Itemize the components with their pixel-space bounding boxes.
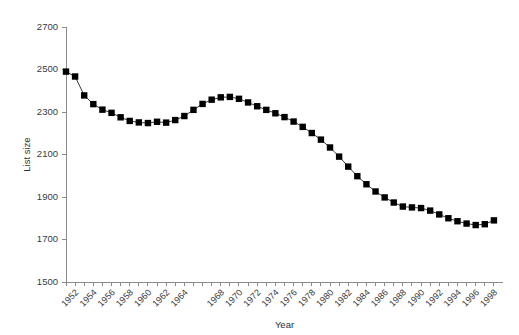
x-tick-label: 1952 bbox=[59, 287, 80, 308]
data-point bbox=[436, 211, 442, 217]
chart-container: 1500170019002100230025002700 19521954195… bbox=[0, 0, 519, 335]
data-point bbox=[263, 107, 269, 113]
data-point bbox=[472, 222, 478, 228]
x-axis-ticks bbox=[66, 282, 494, 286]
x-tick-label: 1980 bbox=[314, 287, 335, 308]
data-point bbox=[227, 94, 233, 100]
x-tick-label: 1970 bbox=[223, 287, 244, 308]
data-point bbox=[172, 117, 178, 123]
y-tick-label: 1700 bbox=[37, 233, 58, 244]
data-point bbox=[272, 110, 278, 116]
x-tick-label: 1990 bbox=[405, 287, 426, 308]
y-tick-label: 2700 bbox=[37, 21, 58, 32]
data-point bbox=[345, 163, 351, 169]
data-point bbox=[181, 113, 187, 119]
data-point bbox=[190, 107, 196, 113]
data-point bbox=[199, 101, 205, 107]
data-point bbox=[136, 119, 142, 125]
y-tick-label: 1900 bbox=[37, 191, 58, 202]
data-point bbox=[290, 118, 296, 124]
data-point bbox=[90, 101, 96, 107]
data-point bbox=[208, 96, 214, 102]
data-point bbox=[454, 218, 460, 224]
data-point bbox=[81, 92, 87, 98]
data-series-line bbox=[66, 72, 494, 225]
x-tick-label: 1986 bbox=[369, 287, 390, 308]
y-tick-label: 2500 bbox=[37, 63, 58, 74]
x-tick-label: 1960 bbox=[132, 287, 153, 308]
data-series-markers bbox=[63, 68, 497, 228]
y-axis-tick-labels: 1500170019002100230025002700 bbox=[37, 21, 58, 287]
x-tick-label: 1976 bbox=[278, 287, 299, 308]
data-point bbox=[409, 204, 415, 210]
data-point bbox=[491, 217, 497, 223]
data-point bbox=[218, 94, 224, 100]
data-point bbox=[363, 181, 369, 187]
data-point bbox=[117, 114, 123, 120]
data-point bbox=[372, 188, 378, 194]
data-point bbox=[127, 118, 133, 124]
x-tick-label: 1954 bbox=[77, 287, 98, 308]
data-point bbox=[300, 124, 306, 130]
data-point bbox=[381, 194, 387, 200]
y-tick-label: 2300 bbox=[37, 106, 58, 117]
x-tick-label: 1998 bbox=[478, 287, 499, 308]
data-point bbox=[336, 153, 342, 159]
line-chart: 1500170019002100230025002700 19521954195… bbox=[0, 0, 519, 335]
data-point bbox=[318, 136, 324, 142]
data-point bbox=[418, 205, 424, 211]
y-axis-title: List size bbox=[21, 137, 32, 171]
data-point bbox=[281, 114, 287, 120]
x-tick-label: 1958 bbox=[114, 287, 135, 308]
x-tick-label: 1982 bbox=[332, 287, 353, 308]
x-axis-tick-labels: 1952195419561958196019621964196819701972… bbox=[59, 287, 499, 308]
data-point bbox=[463, 220, 469, 226]
data-point bbox=[108, 110, 114, 116]
data-point bbox=[236, 96, 242, 102]
x-tick-label: 1988 bbox=[387, 287, 408, 308]
x-tick-label: 1996 bbox=[460, 287, 481, 308]
x-tick-label: 1968 bbox=[205, 287, 226, 308]
data-point bbox=[145, 120, 151, 126]
data-point bbox=[163, 119, 169, 125]
data-point bbox=[154, 119, 160, 125]
data-point bbox=[391, 199, 397, 205]
data-point bbox=[445, 215, 451, 221]
y-axis-ticks bbox=[62, 27, 66, 282]
data-point bbox=[63, 68, 69, 74]
x-tick-label: 1978 bbox=[296, 287, 317, 308]
x-tick-label: 1984 bbox=[351, 287, 372, 308]
data-point bbox=[354, 173, 360, 179]
x-tick-label: 1962 bbox=[150, 287, 171, 308]
data-point bbox=[327, 144, 333, 150]
data-point bbox=[482, 221, 488, 227]
x-axis-title: Year bbox=[275, 319, 294, 330]
x-tick-label: 1974 bbox=[260, 287, 281, 308]
data-point bbox=[400, 203, 406, 209]
x-tick-label: 1992 bbox=[423, 287, 444, 308]
data-point bbox=[245, 99, 251, 105]
data-point bbox=[309, 130, 315, 136]
data-point bbox=[254, 103, 260, 109]
data-point bbox=[427, 207, 433, 213]
x-tick-label: 1972 bbox=[241, 287, 262, 308]
data-point bbox=[72, 73, 78, 79]
data-point bbox=[99, 106, 105, 112]
x-tick-label: 1956 bbox=[96, 287, 117, 308]
y-tick-label: 1500 bbox=[37, 276, 58, 287]
x-tick-label: 1994 bbox=[442, 287, 463, 308]
y-tick-label: 2100 bbox=[37, 148, 58, 159]
x-tick-label: 1964 bbox=[169, 287, 190, 308]
